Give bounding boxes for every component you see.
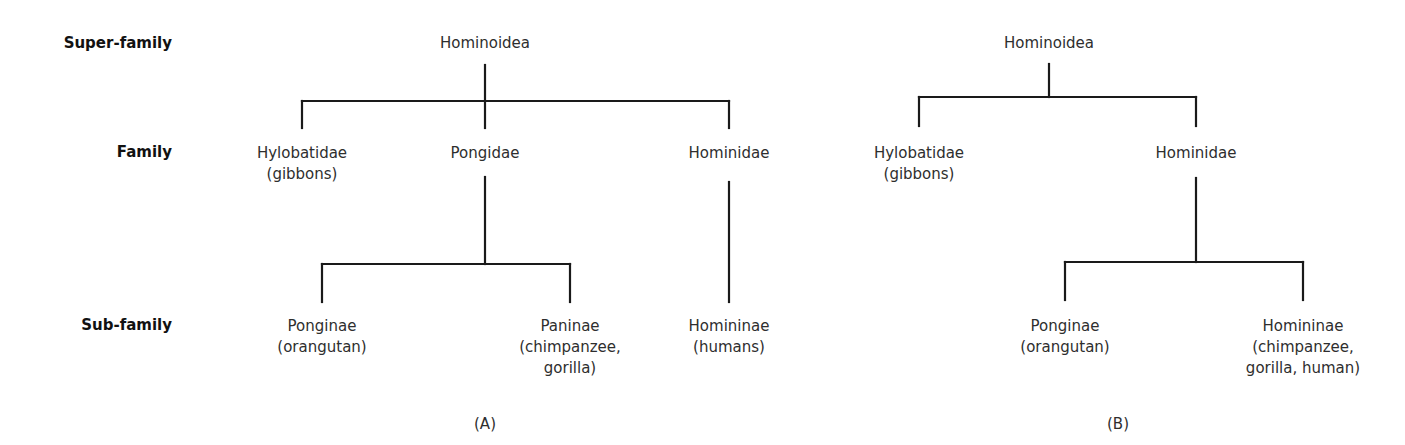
node-text-line: Paninae [519, 316, 621, 337]
rank-label-super-family: Super-family [0, 34, 172, 52]
node-text-line: Hominidae [689, 143, 770, 164]
node-text-line: (chimpanzee, [1246, 337, 1360, 358]
node-text-line: (orangutan) [1020, 337, 1109, 358]
tree-connector-lines [0, 0, 1405, 445]
node-hylobatidae-b: Hylobatidae(gibbons) [874, 143, 964, 185]
node-homininae-a: Homininae(humans) [689, 316, 770, 358]
node-text-line: Hominidae [1156, 143, 1237, 164]
node-text-line: Hylobatidae [874, 143, 964, 164]
node-text-line: Homininae [1246, 316, 1360, 337]
node-text-line: Ponginae [277, 316, 366, 337]
node-text-line: Hominoidea [440, 33, 530, 54]
node-paninae-a: Paninae(chimpanzee,gorilla) [519, 316, 621, 379]
node-hominidae-a: Hominidae [689, 143, 770, 164]
node-text-line: Homininae [689, 316, 770, 337]
rank-label-family: Family [0, 143, 172, 161]
node-text-line: (chimpanzee, [519, 337, 621, 358]
node-text-line: (humans) [689, 337, 770, 358]
node-text-line: Ponginae [1020, 316, 1109, 337]
node-text-line: (orangutan) [277, 337, 366, 358]
rank-label-sub-family: Sub-family [0, 316, 172, 334]
node-text-line: Hominoidea [1004, 33, 1094, 54]
node-hominoidea-b: Hominoidea [1004, 33, 1094, 54]
node-text-line: gorilla) [519, 358, 621, 379]
node-hylobatidae-a: Hylobatidae(gibbons) [257, 143, 347, 185]
node-hominidae-b: Hominidae [1156, 143, 1237, 164]
node-text-line: gorilla, human) [1246, 358, 1360, 379]
node-text-line: Pongidae [451, 143, 520, 164]
node-text-line: (gibbons) [257, 164, 347, 185]
node-pongidae-a: Pongidae [451, 143, 520, 164]
panel-caption-a: (A) [474, 415, 496, 433]
node-text-line: Hylobatidae [257, 143, 347, 164]
taxonomy-diagram: Super-family Family Sub-family Hominoide… [0, 0, 1405, 445]
panel-caption-b: (B) [1107, 415, 1129, 433]
node-text-line: (gibbons) [874, 164, 964, 185]
node-hominoidea-a: Hominoidea [440, 33, 530, 54]
node-homininae-b: Homininae(chimpanzee,gorilla, human) [1246, 316, 1360, 379]
node-ponginae-a: Ponginae(orangutan) [277, 316, 366, 358]
node-ponginae-b: Ponginae(orangutan) [1020, 316, 1109, 358]
